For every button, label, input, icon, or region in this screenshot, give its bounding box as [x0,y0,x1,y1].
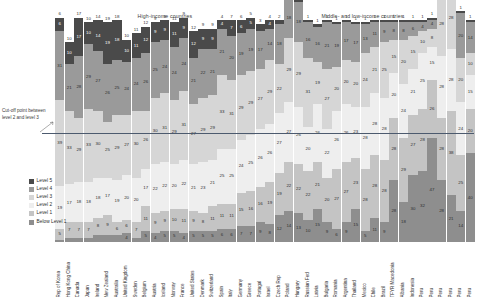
bar-segment: 20 [170,164,179,208]
x-axis-label: Indonesia [410,245,415,297]
stacked-bar-column: 1212262617115 [141,27,150,242]
legend-item-label: Level 4 [37,187,52,192]
chart-root: High-income countries Middle- and low-in… [0,0,480,297]
x-axis-label: Peru [439,245,444,297]
bar-segment-value-label: 29 [74,148,83,152]
bar-segment: 28 [370,93,379,155]
bar-segment: 20 [399,40,408,84]
bar-segment-value-label: 9 [160,219,169,223]
bar-segment: 18 [84,182,93,222]
x-axis-label: Rep of Korea [57,245,62,297]
bar-segment: 19 [332,24,341,66]
bar-segment: 21 [189,58,198,105]
bar-segment: 10 [84,22,93,44]
bar-segment: 21 [447,195,456,242]
bar-segment-value-label: 20 [399,60,408,64]
bar-segment-value-label: 22 [275,87,284,91]
bar-segment: 40 [466,153,475,242]
bar-segment-value-label: 27 [256,97,265,101]
bar-segment: 22 [179,160,188,209]
bar-segment-value-label: 4 [265,22,274,26]
bar-segment-value-label: 20 [389,93,398,97]
bar-segment-value-label: 28 [389,147,398,151]
bar-segment: 24 [160,40,169,93]
bar-segment-value-label: 30 [408,206,417,210]
x-axis-label: Brazil [381,245,386,297]
bar-segment: 16 [246,191,255,227]
bar-segment-value-label: 7 [246,232,255,236]
bar-segment-value-label: 28 [361,135,370,139]
bar-segment: 21 [65,64,74,111]
bar-segment-value-label: 28 [361,198,370,202]
bar-segment: 25 [217,149,226,205]
bar-segment: 8 [389,22,398,40]
bar-segment-value-label: 6 [237,24,246,28]
bar-segment-value-label: 16 [246,206,255,210]
bar-segment: 33 [65,111,74,184]
bar-segment-value-label: 8 [198,220,207,224]
bar-segment: 19 [103,22,112,64]
bar-segment: 10 [466,53,475,75]
bar-segment-value-label: 20 [456,78,465,82]
bar-segment: 20 [456,13,465,57]
bar-segment: 20 [132,178,141,222]
stacked-bar-column: 44142926198 [265,20,274,242]
stacked-bar-column: 44213325116 [217,20,226,242]
bar-segment-value-label: 20 [322,198,331,202]
bar-segment: 9 [380,22,389,42]
bar-segment-value-label: 12 [275,226,284,230]
bar-segment-value-label: 6 [217,233,226,237]
cutoff-annotation-text: Cut-off point between level 2 and level … [2,108,46,121]
bar-segment: 8 [198,213,207,231]
bar-segment-value-label: 4 [122,235,131,239]
bar-segment: 28 [389,118,398,180]
bar-segment-value-label: 38 [447,151,456,155]
bar-segment: 17 [74,18,83,56]
bar-segment-value-label: 26 [256,155,265,159]
stacked-bar-column: 21829262213 [294,0,303,242]
stacked-bar-column: 11528282828 [437,0,446,242]
bar-segment-value-label: 15 [313,223,322,227]
bar-segment-value-label: 18 [84,200,93,204]
bar-segment: 27 [342,162,351,222]
bar-segment-value-label: 21 [65,85,74,89]
bar-segment: 6 [55,18,64,31]
bar-segment: 20 [456,58,465,102]
bar-segment-value-label: 21 [370,68,379,72]
bar-segment [65,238,74,242]
bar-segment-value-label: 29 [265,90,274,94]
bar-segment: 4 [217,20,226,29]
bar-segment-value-label: 29 [246,101,255,105]
x-axis-label: Peru [458,245,463,297]
bar-segment: 25 [456,155,465,211]
bar-segment-value-label: 20 [303,147,312,151]
bar-segment: 6 [332,229,341,242]
bar-segment-value-label: 33 [217,110,226,114]
bar-segment-value-label: 18 [275,42,284,46]
bar-segment: 28 [74,56,83,118]
bar-segment: 31 [160,93,169,162]
bar-segment-value-label: 11 [217,214,226,218]
bar-segment: 12 [141,27,150,54]
bar-segment: 21 [208,160,217,207]
bar-segment: 5 [170,231,179,242]
bar-segment: 23 [198,162,207,213]
bar-segment: 31 [227,80,236,149]
bar-segment-value-label: 15 [408,50,417,54]
bar-segment-value-label: 6 [55,22,64,26]
bar-segment: 24 [399,84,408,137]
bar-segment: 8 [427,29,436,47]
bar-segment: 28 [361,107,370,169]
bar-segment-value-label: 9 [380,30,389,34]
bar-segment-value-label: 20 [170,184,179,188]
bar-segment-value-label: 25 [217,174,226,178]
x-axis-label: Hong Kong China [66,245,71,297]
bar-segment: 9 [151,22,160,42]
legend-item-label: Level 2 [37,203,52,208]
bar-segment: 7 [237,226,246,242]
bar-segment [55,240,64,242]
bar-segment: 14 [265,29,274,60]
bar-segment: 24 [122,62,131,115]
bar-segment-value-label: 5 [170,234,179,238]
bar-segment-value-label: 6 [408,27,417,31]
